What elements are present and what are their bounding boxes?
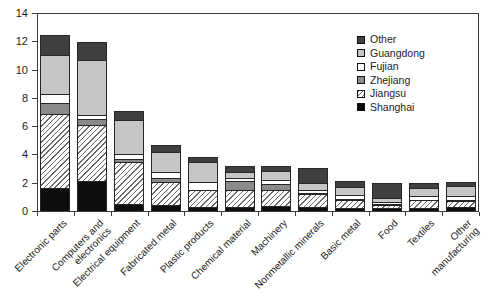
legend-label: Shanghai — [370, 101, 414, 115]
x-axis-tick — [37, 212, 38, 216]
bar-segment-guangdong — [372, 198, 402, 202]
legend-item: Fujian — [357, 60, 425, 74]
bar-segment-fujian — [225, 178, 255, 182]
legend-swatch-fujian — [357, 63, 365, 71]
bar-segment-zhejiang — [151, 178, 181, 182]
legend-swatch-jiangsu — [357, 90, 365, 98]
y-axis-tick-label: 0 — [0, 204, 28, 218]
bar-segment-guangdong — [261, 171, 291, 179]
bar-segment-other — [40, 35, 70, 55]
x-axis-tick — [479, 212, 480, 216]
legend-item: Guangdong — [357, 47, 425, 61]
bar-segment-jiangsu — [225, 190, 255, 207]
bar-segment-other — [188, 157, 218, 162]
bar-segment-zhejiang — [77, 119, 107, 125]
x-axis-tick — [332, 212, 333, 216]
bar-segment-jiangsu — [298, 194, 328, 207]
bar-segment-guangdong — [446, 186, 476, 197]
bar-segment-shanghai — [372, 208, 402, 211]
bar-segment-shanghai — [151, 205, 181, 211]
bar-segment-fujian — [261, 180, 291, 184]
x-axis-tick — [148, 212, 149, 216]
x-axis-tick — [111, 212, 112, 216]
legend-swatch-other — [357, 36, 365, 44]
legend-swatch-zhejiang — [357, 76, 365, 84]
bar-segment-zhejiang — [40, 103, 70, 114]
bar-segment-guangdong — [77, 60, 107, 115]
bar-segment-other — [298, 168, 328, 184]
bar-segment-shanghai — [225, 207, 255, 211]
bar-segment-guangdong — [335, 187, 365, 195]
y-axis-tick — [32, 154, 37, 155]
y-axis-tick-label: 2 — [0, 176, 28, 190]
bar-segment-other — [114, 111, 144, 120]
bar-segment-zhejiang — [298, 193, 328, 194]
legend-swatch-shanghai — [357, 103, 365, 111]
bar-segment-guangdong — [114, 120, 144, 154]
bar-segment-jiangsu — [77, 125, 107, 182]
bar-segment-zhejiang — [261, 184, 291, 190]
bar-segment-jiangsu — [409, 200, 439, 208]
x-axis-category-label: Food — [377, 218, 401, 242]
legend-swatch-guangdong — [357, 49, 365, 57]
x-axis-tick — [369, 212, 370, 216]
bar-segment-jiangsu — [114, 162, 144, 204]
bar-segment-other — [446, 182, 476, 186]
legend-label: Fujian — [370, 60, 399, 74]
y-axis-tick — [32, 183, 37, 184]
bar-segment-jiangsu — [40, 114, 70, 188]
y-axis-tick-label: 4 — [0, 147, 28, 161]
bar-segment-shanghai — [77, 181, 107, 211]
bar-segment-fujian — [298, 190, 328, 194]
bar-segment-fujian — [446, 196, 476, 200]
bar-segment-fujian — [409, 196, 439, 200]
bar-segment-guangdong — [409, 188, 439, 196]
bar-segment-zhejiang — [372, 204, 402, 205]
legend-label: Jiangsu — [370, 87, 406, 101]
bar-segment-shanghai — [335, 208, 365, 211]
legend-label: Other — [370, 33, 396, 47]
bar-segment-jiangsu — [335, 200, 365, 208]
bar-segment-other — [409, 183, 439, 188]
y-axis-tick — [32, 70, 37, 71]
x-axis-category-label: Nonmetallic minerals — [254, 218, 327, 291]
bar-segment-guangdong — [298, 183, 328, 189]
x-axis-tick — [405, 212, 406, 216]
bar-segment-fujian — [188, 182, 218, 190]
bar-segment-other — [151, 145, 181, 152]
x-axis-tick — [74, 212, 75, 216]
bar-segment-other — [335, 181, 365, 187]
y-axis-tick-label: 6 — [0, 119, 28, 133]
bar-segment-other — [77, 42, 107, 60]
bar-segment-shanghai — [261, 206, 291, 211]
x-axis-tick — [258, 212, 259, 216]
bar-segment-zhejiang — [114, 159, 144, 163]
bar-segment-other — [225, 166, 255, 172]
bar-segment-guangdong — [188, 162, 218, 182]
bar-segment-jiangsu — [151, 182, 181, 205]
y-axis-tick-label: 12 — [0, 34, 28, 48]
bar-segment-zhejiang — [409, 200, 439, 201]
bar-segment-shanghai — [409, 208, 439, 211]
bar-segment-shanghai — [188, 207, 218, 211]
legend-item: Zhejiang — [357, 74, 425, 88]
legend-label: Guangdong — [370, 47, 425, 61]
bar-segment-zhejiang — [335, 199, 365, 200]
bar-segment-jiangsu — [372, 205, 402, 208]
bar-segment-fujian — [77, 115, 107, 119]
y-axis-tick-label: 8 — [0, 91, 28, 105]
bar-segment-shanghai — [40, 188, 70, 211]
bar-segment-fujian — [114, 154, 144, 159]
bar-segment-shanghai — [114, 204, 144, 211]
legend-item: Shanghai — [357, 101, 425, 115]
y-axis-tick-label: 10 — [0, 63, 28, 77]
legend: OtherGuangdongFujianZhejiangJiangsuShang… — [357, 33, 425, 114]
y-axis-tick-label: 14 — [0, 6, 28, 20]
legend-item: Other — [357, 33, 425, 47]
bar-segment-zhejiang — [446, 200, 476, 201]
bar-segment-zhejiang — [188, 190, 218, 191]
legend-label: Zhejiang — [370, 74, 410, 88]
x-axis-tick — [442, 212, 443, 216]
bar-segment-jiangsu — [261, 190, 291, 206]
bar-segment-guangdong — [151, 152, 181, 172]
